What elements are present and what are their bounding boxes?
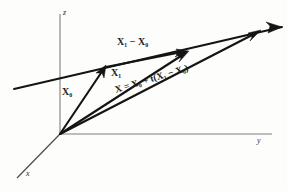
vector-x1-shaft xyxy=(60,54,184,134)
label-vector-x0-text: X₀ xyxy=(62,86,72,97)
label-difference-vector: X₁ − X₀ xyxy=(117,37,148,47)
label-axis-x: x xyxy=(26,170,30,178)
label-vector-x0: X₀ xyxy=(62,87,72,97)
label-axis-y-text: y xyxy=(257,136,261,145)
label-axis-y: y xyxy=(257,137,261,145)
parametric-line-arrowhead xyxy=(266,22,282,33)
vector-x0-shaft xyxy=(60,70,103,134)
label-axis-x-text: x xyxy=(26,169,30,178)
label-difference-vector-text: X₁ − X₀ xyxy=(117,36,148,47)
x-axis xyxy=(17,134,60,178)
label-axis-z-text: z xyxy=(63,8,66,17)
vector-x0-arrowhead xyxy=(96,65,106,78)
label-axis-z: z xyxy=(63,9,66,17)
label-vector-x1-text: X₁ xyxy=(111,67,121,78)
vector-line-diagram: X₁ − X₀ X₀ X₁ X = X₀ + t(X₁ − X₀) z y x xyxy=(0,0,287,191)
vector-result-shaft xyxy=(60,33,256,134)
diagram-canvas xyxy=(0,0,287,191)
label-vector-x1: X₁ xyxy=(111,68,121,78)
vector-difference-shaft xyxy=(106,52,182,67)
